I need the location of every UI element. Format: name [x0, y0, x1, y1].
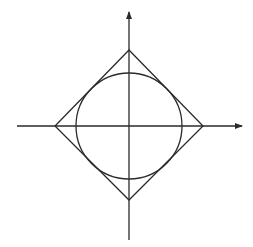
diagram-figure — [0, 0, 253, 247]
